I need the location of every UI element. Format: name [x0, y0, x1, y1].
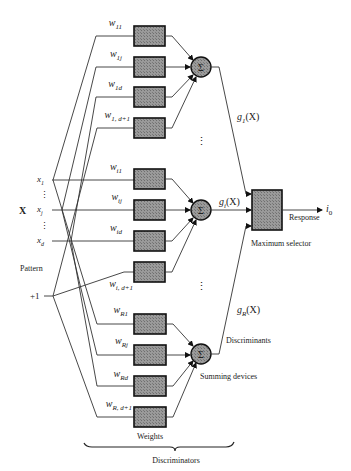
- svg-text:wi, d+1: wi, d+1: [109, 278, 133, 292]
- weight-box-1-1: [134, 26, 165, 46]
- maximum-selector-box: [252, 190, 282, 230]
- discriminants-label: Discriminants: [226, 336, 271, 345]
- bias-label: +1: [30, 291, 40, 301]
- response-label: Response: [289, 213, 320, 222]
- input-x1-label: x1: [36, 174, 44, 186]
- svg-text:wi1: wi1: [110, 161, 122, 175]
- weight-box-i-d1: [134, 262, 165, 282]
- svg-text:w11: w11: [109, 17, 122, 31]
- svg-text:Σ: Σ: [198, 205, 204, 216]
- svg-text:Σ: Σ: [198, 349, 204, 360]
- svg-text:w1d: w1d: [108, 78, 122, 92]
- discriminator-group-R: Σ wR1 wRj wRd wR, d+1: [106, 304, 211, 427]
- discriminant-label-1: g1(X): [237, 111, 259, 125]
- weight-box-R-d: [134, 376, 166, 396]
- input-vector-label: X: [19, 205, 27, 216]
- svg-text:w1, d+1: w1, d+1: [105, 109, 130, 123]
- input-xd-label: xd: [36, 235, 45, 247]
- ellipsis-input-2: ⋮: [40, 221, 49, 231]
- svg-text:wRj: wRj: [115, 335, 128, 349]
- sigma-symbol: Σ: [198, 62, 204, 73]
- weight-box-R-1: [134, 314, 166, 334]
- discriminant-label-R: gR(X): [237, 304, 260, 318]
- ellipsis-lower: ⋮: [196, 280, 207, 292]
- discriminant-label-i: gi(X): [219, 196, 240, 210]
- discriminators-brace: [84, 442, 234, 451]
- svg-text:wR, d+1: wR, d+1: [106, 398, 132, 412]
- input-xj-label: xj: [36, 204, 43, 216]
- svg-text:wij: wij: [111, 191, 122, 205]
- weights-label: Weights: [137, 432, 163, 441]
- classifier-diagram: Σ w11 w1j w1d w1, d+1 Σ wi1 wij wi: [0, 0, 351, 471]
- discriminators-label: Discriminators: [152, 456, 200, 465]
- weight-box-1-d1: [134, 118, 165, 138]
- weight-box-1-j: [134, 57, 165, 77]
- fanout-up: [53, 36, 134, 296]
- weight-box-i-d: [134, 231, 165, 251]
- svg-text:wRd: wRd: [114, 368, 129, 382]
- summing-devices-label: Summing devices: [200, 372, 257, 381]
- weight-box-1-d: [134, 87, 165, 107]
- discriminator-group-1: Σ w11 w1j w1d w1, d+1: [105, 17, 211, 138]
- weight-box-i-1: [134, 169, 165, 189]
- svg-text:wR1: wR1: [114, 304, 128, 318]
- svg-text:w1j: w1j: [110, 48, 122, 62]
- pattern-label: Pattern: [20, 264, 43, 273]
- maximum-selector-label: Maximum selector: [251, 239, 312, 248]
- svg-text:wid: wid: [110, 222, 123, 236]
- weight-box-R-j: [134, 345, 166, 365]
- ellipsis-upper: ⋮: [196, 135, 207, 147]
- weight-box-i-j: [134, 200, 165, 220]
- weight-box-R-d1: [134, 407, 166, 427]
- output-label: i0: [326, 203, 333, 217]
- ellipsis-input-1: ⋮: [40, 190, 49, 200]
